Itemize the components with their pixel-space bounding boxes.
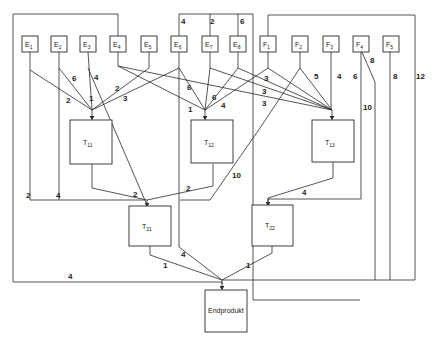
node-t11: T11: [70, 120, 112, 164]
svg-text:2: 2: [186, 184, 191, 193]
node-t13: T13: [312, 120, 354, 162]
svg-text:4: 4: [68, 272, 73, 281]
node-f3: F3: [323, 36, 339, 52]
svg-text:12: 12: [416, 72, 425, 81]
svg-text:8: 8: [370, 56, 375, 65]
svg-text:4: 4: [221, 101, 226, 110]
node-e2: E2: [51, 36, 67, 52]
node-e1: E1: [22, 36, 38, 52]
node-f5: F5: [383, 36, 399, 52]
svg-text:6: 6: [187, 83, 192, 92]
node-t21: T21: [129, 206, 171, 246]
svg-text:8: 8: [393, 72, 398, 81]
svg-text:1: 1: [89, 94, 94, 103]
node-f4: F4: [353, 36, 369, 52]
node-endprodukt: Endprodukt: [205, 290, 247, 332]
node-t22: T22: [252, 205, 293, 246]
svg-text:6: 6: [240, 17, 245, 26]
svg-text:3: 3: [262, 99, 267, 108]
svg-text:10: 10: [232, 171, 241, 180]
node-f2: F2: [292, 36, 308, 52]
svg-text:6: 6: [72, 74, 77, 83]
svg-text:2: 2: [133, 190, 138, 199]
svg-text:6: 6: [353, 72, 358, 81]
svg-text:5: 5: [314, 72, 319, 81]
svg-text:4: 4: [94, 73, 99, 82]
node-e4: E4: [110, 36, 126, 52]
node-e3: E3: [80, 36, 96, 52]
svg-text:10: 10: [363, 103, 372, 112]
svg-text:1: 1: [163, 261, 168, 270]
svg-text:4: 4: [302, 188, 307, 197]
svg-text:3: 3: [262, 87, 267, 96]
svg-text:2: 2: [26, 191, 31, 200]
svg-text:1: 1: [246, 261, 251, 270]
node-t12: T12: [191, 120, 233, 163]
svg-text:1: 1: [188, 105, 193, 114]
svg-text:3: 3: [123, 94, 128, 103]
svg-text:4: 4: [56, 191, 61, 200]
node-e7: E7: [202, 36, 218, 52]
svg-text:4: 4: [337, 72, 342, 81]
node-e8: E8: [230, 36, 246, 52]
svg-text:2: 2: [66, 96, 71, 105]
node-f1: F1: [260, 36, 276, 52]
svg-text:Endprodukt: Endprodukt: [208, 307, 244, 315]
svg-text:2: 2: [115, 84, 120, 93]
gozinto-diagram: E1 E2 E3 E4 E5 E6 E7 E8 F1 F2 F3 F4 F5 T…: [0, 0, 433, 342]
svg-text:4: 4: [181, 250, 186, 259]
node-e5: E5: [141, 36, 157, 52]
svg-text:6: 6: [212, 93, 217, 102]
svg-text:4: 4: [181, 17, 186, 26]
node-e6: E6: [171, 36, 187, 52]
svg-text:3: 3: [264, 74, 269, 83]
svg-text:2: 2: [210, 17, 215, 26]
raw-material-boxes: E1 E2 E3 E4 E5 E6 E7 E8 F1 F2 F3 F4 F5: [22, 36, 399, 52]
